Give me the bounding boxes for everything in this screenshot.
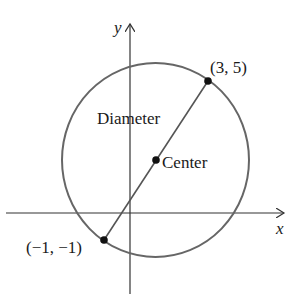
endpoint-upper-label: (3, 5) <box>210 58 247 77</box>
endpoint-upper-point <box>204 77 212 85</box>
center-point <box>152 156 160 164</box>
x-axis-label: x <box>275 219 284 238</box>
endpoint-lower-point <box>100 236 108 244</box>
y-axis-label: y <box>112 18 122 37</box>
center-label: Center <box>162 153 208 172</box>
diagram-canvas: y x (3, 5) (−1, −1) Diameter Center <box>0 0 290 294</box>
diameter-label: Diameter <box>97 109 161 128</box>
endpoint-lower-label: (−1, −1) <box>26 238 82 257</box>
